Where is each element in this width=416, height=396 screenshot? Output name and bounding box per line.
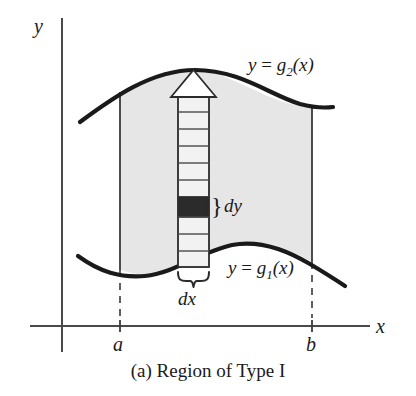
dx-brace: [178, 272, 209, 287]
curve-label-g2-y: y: [248, 54, 256, 75]
dx-label: dx: [178, 289, 196, 308]
curve-label-g2-arg: (x): [293, 54, 314, 75]
curve-label-g2: y = g2(x): [248, 55, 314, 78]
figure-canvas: [0, 0, 416, 396]
curve-label-g1-eq: =: [241, 257, 252, 278]
dy-brace: }: [211, 193, 223, 220]
bound-label-b: b: [306, 334, 316, 354]
dy-label: dy: [224, 196, 242, 215]
dy-element-band: [179, 197, 209, 217]
type-i-region-figure: y x a b y = g2(x) y = g1(x) } dy dx (a) …: [0, 0, 416, 396]
curve-label-g2-eq: =: [261, 54, 272, 75]
y-axis-label: y: [34, 16, 43, 36]
curve-label-g2-fn: g: [277, 54, 287, 75]
shaded-region: [120, 70, 312, 275]
sampling-strip: [171, 70, 216, 267]
curve-label-g1-y: y: [228, 257, 236, 278]
x-axis-label: x: [376, 316, 385, 336]
bound-label-a: a: [113, 334, 123, 354]
curve-label-g1-arg: (x): [273, 257, 294, 278]
figure-caption: (a) Region of Type I: [0, 360, 416, 382]
strip-column: [178, 95, 209, 267]
curve-label-g1-fn: g: [257, 257, 267, 278]
curve-label-g1: y = g1(x): [228, 258, 294, 281]
